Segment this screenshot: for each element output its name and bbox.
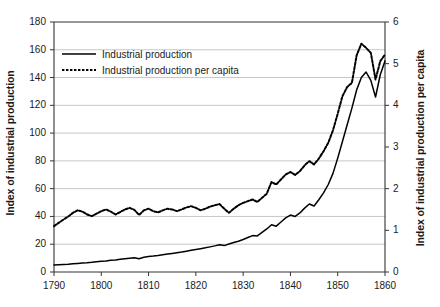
x-axis-tick: 1860 [365,280,405,291]
y-axis-tick-left: 160 [16,44,46,55]
x-axis-tick: 1800 [81,280,121,291]
y-axis-tick-left: 120 [16,99,46,110]
y-axis-tick-left: 140 [16,72,46,83]
legend-item-industrial-production-per-capita: Industrial production per capita [62,63,239,77]
x-axis-tick: 1850 [318,280,358,291]
legend-item-industrial-production: Industrial production [62,47,239,61]
y-axis-tick-right: 5 [393,58,413,69]
y-axis-tick-left: 180 [16,16,46,27]
y-axis-tick-left: 80 [16,155,46,166]
chart-legend: Industrial production Industrial product… [62,47,239,77]
y-axis-tick-left: 40 [16,210,46,221]
y-axis-tick-right: 3 [393,141,413,152]
legend-swatch-dotted-line [62,65,96,75]
gridlines [54,50,385,244]
series-line [54,61,385,265]
x-axis-tick: 1790 [34,280,74,291]
y-axis-tick-left: 60 [16,183,46,194]
x-axis-tick: 1820 [176,280,216,291]
legend-label-industrial-production-per-capita: Industrial production per capita [102,65,239,76]
y-axis-tick-left: 0 [16,266,46,277]
y-axis-tick-right: 6 [393,16,413,27]
legend-swatch-solid-line [62,49,96,59]
legend-label-industrial-production: Industrial production [102,49,192,60]
chart-container: Index of industrial production Index of … [0,0,440,307]
y-axis-tick-right: 2 [393,183,413,194]
x-axis-tick: 1830 [223,280,263,291]
x-axis-tick: 1810 [129,280,169,291]
y-axis-tick-left: 100 [16,127,46,138]
y-axis-tick-left: 20 [16,238,46,249]
y-axis-tick-right: 0 [393,266,413,277]
x-axis-tick: 1840 [270,280,310,291]
y-axis-tick-right: 4 [393,99,413,110]
y-axis-tick-right: 1 [393,224,413,235]
